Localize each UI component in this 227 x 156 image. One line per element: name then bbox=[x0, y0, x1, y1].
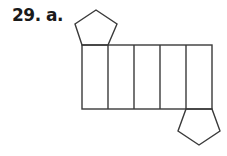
top-pentagon-face bbox=[75, 10, 117, 45]
pentagonal-prism-net bbox=[0, 0, 227, 156]
bottom-pentagon-face bbox=[178, 109, 220, 145]
lateral-faces-strip bbox=[82, 45, 212, 109]
